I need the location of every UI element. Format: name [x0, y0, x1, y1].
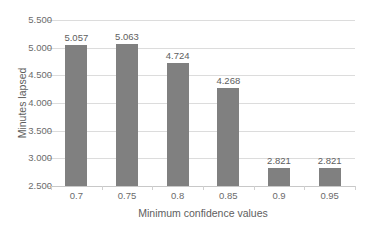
- bar-chart: Minutes lapsed 5.5005.0004.5004.0003.500…: [0, 0, 370, 230]
- x-tick-mark: [254, 186, 255, 190]
- x-tick-mark: [51, 186, 52, 190]
- y-tick-label: 4.000: [12, 97, 52, 108]
- bar-group: 4.268: [203, 20, 254, 186]
- y-tick-label: 5.500: [12, 14, 52, 25]
- bar-value-label: 2.821: [318, 155, 342, 166]
- bar[interactable]: [167, 63, 189, 186]
- bar-value-label: 5.057: [64, 32, 88, 43]
- plot-area: 5.0575.0634.7244.2682.8212.821: [51, 20, 355, 186]
- y-tick-label: 2.500: [12, 180, 52, 191]
- bar-value-label: 5.063: [115, 31, 139, 42]
- bar-group: 2.821: [304, 20, 355, 186]
- bar[interactable]: [217, 88, 239, 186]
- bar-group: 4.724: [152, 20, 203, 186]
- bar-group: 2.821: [254, 20, 305, 186]
- bar-value-label: 4.724: [166, 50, 190, 61]
- y-tick-label: 3.500: [12, 125, 52, 136]
- bar-value-label: 4.268: [216, 75, 240, 86]
- bar-group: 5.063: [102, 20, 153, 186]
- bar-group: 5.057: [51, 20, 102, 186]
- y-tick-label: 3.000: [12, 152, 52, 163]
- y-tick-label: 4.500: [12, 69, 52, 80]
- x-tick-label: 0.95: [305, 190, 355, 201]
- bar[interactable]: [319, 168, 341, 186]
- x-tick-mark: [102, 186, 103, 190]
- bar-value-label: 2.821: [267, 155, 291, 166]
- y-tick-label: 5.000: [12, 42, 52, 53]
- x-tick-mark: [203, 186, 204, 190]
- x-axis-title: Minimum confidence values: [51, 207, 355, 219]
- x-tick-mark: [355, 186, 356, 190]
- x-tick-label: 0.75: [102, 190, 152, 201]
- x-tick-label: 0.8: [153, 190, 203, 201]
- x-tick-label: 0.85: [203, 190, 253, 201]
- x-tick-mark: [152, 186, 153, 190]
- bar[interactable]: [116, 44, 138, 186]
- x-tick-mark: [304, 186, 305, 190]
- bar[interactable]: [65, 45, 87, 186]
- x-tick-label: 0.7: [51, 190, 101, 201]
- x-tick-label: 0.9: [254, 190, 304, 201]
- bar[interactable]: [268, 168, 290, 186]
